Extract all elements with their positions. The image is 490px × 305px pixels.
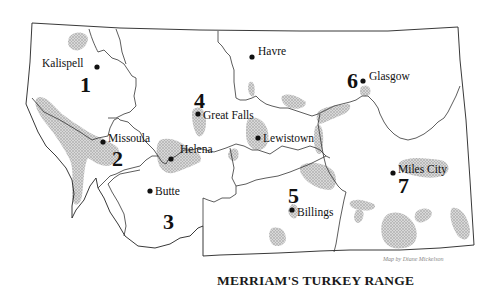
range-area: [360, 85, 371, 96]
range-area: [354, 209, 364, 222]
cities: Kalispell Havre Glasgow Great Falls Miss…: [42, 45, 447, 219]
city-marker-icon: [147, 188, 152, 193]
city-marker-icon: [100, 139, 105, 144]
range-area: [68, 32, 88, 50]
city-label: Havre: [258, 45, 286, 57]
range-area: [381, 212, 417, 248]
city-marker-icon: [249, 54, 254, 59]
city-label: Butte: [155, 185, 180, 197]
city-marker-icon: [360, 78, 365, 83]
range-area: [415, 208, 432, 222]
range-area: [281, 94, 306, 108]
range-area: [269, 228, 286, 247]
map-credit: Map by Diane Mickelson: [383, 256, 443, 262]
range-area: [450, 208, 470, 240]
range-area: [300, 163, 336, 190]
city-label: Missoula: [108, 132, 150, 144]
city-marker-icon: [390, 170, 395, 175]
city-glasgow: Glasgow: [360, 70, 410, 84]
city-label: Billings: [297, 206, 334, 219]
region-boundary: [89, 29, 136, 118]
range-area: [248, 82, 255, 97]
city-marker-icon: [255, 135, 260, 140]
range-area: [228, 148, 239, 161]
city-label: Lewistown: [263, 132, 314, 144]
region-number-1: 1: [80, 72, 91, 97]
city-marker-icon: [94, 64, 99, 69]
city-butte: Butte: [147, 185, 180, 197]
region-number-6: 6: [347, 68, 358, 93]
city-marker-icon: [168, 156, 173, 161]
city-havre: Havre: [249, 45, 286, 60]
region-boundary: [108, 170, 140, 236]
region-number-7: 7: [398, 173, 409, 198]
range-area: [35, 97, 119, 204]
city-kalispell: Kalispell: [42, 57, 100, 70]
range-area: [317, 104, 351, 124]
city-label: Helena: [180, 143, 213, 155]
city-marker-icon: [289, 207, 294, 212]
city-label: Kalispell: [42, 57, 84, 70]
city-label: Great Falls: [203, 109, 254, 121]
region-boundary: [116, 29, 126, 64]
range-area: [350, 200, 375, 211]
city-label: Glasgow: [369, 70, 411, 83]
region-number-2: 2: [112, 146, 123, 171]
region-number-5: 5: [288, 183, 299, 208]
turkey-range-areas: [35, 32, 470, 248]
region-number-3: 3: [163, 209, 174, 234]
region-number-4: 4: [194, 88, 205, 113]
city-lewistown: Lewistown: [255, 132, 314, 144]
city-missoula: Missoula: [100, 132, 150, 145]
map-title: MERRIAM'S TURKEY RANGE: [217, 273, 414, 289]
